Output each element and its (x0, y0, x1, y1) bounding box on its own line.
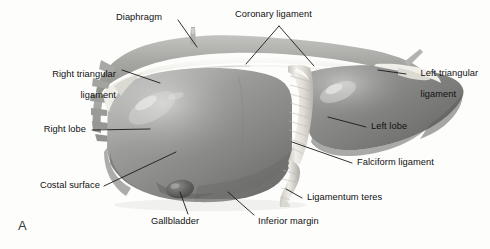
label-right-triangular-ligament-line2: ligament (80, 90, 116, 100)
label-left-triangular-ligament: Left triangular ligament (410, 57, 478, 110)
label-costal-surface: Costal surface (16, 180, 100, 191)
label-right-lobe: Right lobe (20, 124, 86, 135)
label-right-triangular-ligament-line1: Right triangular (52, 69, 116, 79)
label-right-triangular-ligament: Right triangular ligament (24, 58, 116, 111)
label-inferior-margin: Inferior margin (258, 216, 319, 227)
label-coronary-ligament: Coronary ligament (235, 9, 312, 20)
right-lobe-shape (104, 68, 292, 202)
label-left-triangular-ligament-line2: ligament (421, 89, 457, 99)
anatomy-figure: Diaphragm Coronary ligament Right triang… (0, 0, 490, 249)
label-ligamentum-teres: Ligamentum teres (307, 192, 382, 203)
panel-label: A (18, 218, 27, 233)
label-falciform-ligament: Falciform ligament (357, 157, 434, 168)
label-diaphragm: Diaphragm (116, 12, 162, 23)
label-left-lobe: Left lobe (371, 121, 407, 132)
label-gallbladder: Gallbladder (151, 216, 199, 227)
label-left-triangular-ligament-line1: Left triangular (421, 68, 479, 78)
